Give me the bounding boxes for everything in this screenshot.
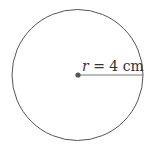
center-point (75, 72, 80, 77)
radius-label: r = 4 cm (82, 58, 144, 74)
radius-equals: = (89, 58, 110, 74)
radius-value: 4 cm (109, 58, 143, 74)
circle-diagram: r = 4 cm (0, 0, 149, 154)
